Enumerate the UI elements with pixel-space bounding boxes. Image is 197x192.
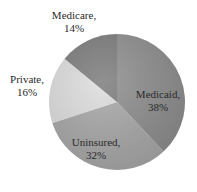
slice-label-medicare: Medicare, 14% xyxy=(52,9,96,35)
label-value: 16% xyxy=(10,86,44,99)
label-name: Uninsured, xyxy=(72,136,121,149)
slice-label-medicaid: Medicaid, 38% xyxy=(136,88,180,114)
label-value: 32% xyxy=(72,149,121,162)
label-name: Private, xyxy=(10,73,44,86)
label-name: Medicare, xyxy=(52,9,96,22)
label-name: Medicaid, xyxy=(136,88,180,101)
label-value: 38% xyxy=(136,101,180,114)
slice-label-uninsured: Uninsured, 32% xyxy=(72,136,121,162)
slice-label-private: Private, 16% xyxy=(10,73,44,99)
label-value: 14% xyxy=(52,22,96,35)
